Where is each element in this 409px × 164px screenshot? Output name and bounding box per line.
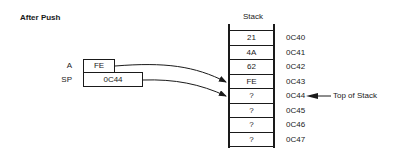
arrow-top-of-stack-icon <box>306 93 331 99</box>
arrow-a-to-fe-icon <box>115 65 226 82</box>
arrow-sp-to-0c44-icon <box>143 80 226 96</box>
arrows-layer <box>0 0 409 164</box>
